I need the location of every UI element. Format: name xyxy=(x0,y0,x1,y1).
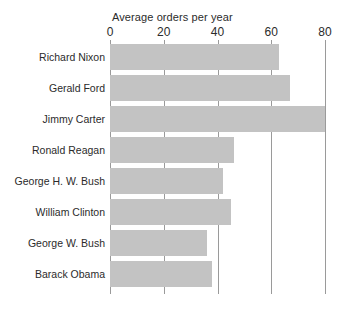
gridline-80 xyxy=(325,42,326,294)
bar-ronald-reagan xyxy=(110,137,234,163)
bar-barack-obama xyxy=(110,261,212,287)
plot-area xyxy=(110,44,341,292)
x-tick-label-20: 20 xyxy=(157,25,170,39)
x-tick-label-40: 40 xyxy=(211,25,224,39)
bar-jimmy-carter xyxy=(110,106,325,132)
category-label: William Clinton xyxy=(36,199,105,225)
bar-george-h-w-bush xyxy=(110,168,223,194)
category-label: Jimmy Carter xyxy=(43,106,105,132)
bar-row xyxy=(110,75,325,101)
category-label: George W. Bush xyxy=(28,230,105,256)
x-tick-label-60: 60 xyxy=(265,25,278,39)
category-label: Ronald Reagan xyxy=(32,137,105,163)
category-label: Richard Nixon xyxy=(39,44,105,70)
bar-row xyxy=(110,261,325,287)
bar-gerald-ford xyxy=(110,75,290,101)
category-label: Gerald Ford xyxy=(49,75,105,101)
bar-chart: Average orders per year 020406080 Richar… xyxy=(0,0,341,311)
bar-row xyxy=(110,106,325,132)
bar-row xyxy=(110,44,325,70)
category-label: Barack Obama xyxy=(35,261,105,287)
bar-row xyxy=(110,137,325,163)
bar-william-clinton xyxy=(110,199,231,225)
bar-richard-nixon xyxy=(110,44,279,70)
category-label: George H. W. Bush xyxy=(15,168,105,194)
bar-row xyxy=(110,199,325,225)
bar-row xyxy=(110,168,325,194)
x-tick-label-80: 80 xyxy=(318,25,331,39)
chart-title: Average orders per year xyxy=(112,11,233,23)
x-tick-label-0: 0 xyxy=(107,25,114,39)
bar-george-w-bush xyxy=(110,230,207,256)
bar-row xyxy=(110,230,325,256)
